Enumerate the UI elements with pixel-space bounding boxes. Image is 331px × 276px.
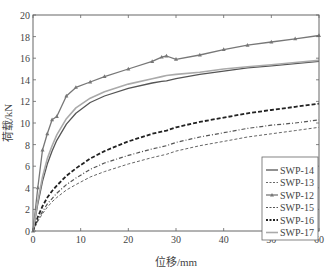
y-tick-label: 18 — [20, 32, 30, 43]
y-tick-label: 14 — [20, 75, 30, 86]
y-tick-label: 20 — [20, 10, 30, 21]
legend-entry: SWP-17 — [280, 227, 314, 238]
y-tick-label: 10 — [20, 118, 30, 129]
x-tick-label: 40 — [219, 234, 229, 245]
y-tick-label: 0 — [25, 226, 30, 237]
y-tick-label: 16 — [20, 53, 30, 64]
legend-entry: SWP-12 — [280, 190, 314, 201]
line-chart: 02468101214161820 0102030405060 荷载/kN 位移… — [0, 0, 331, 276]
y-axis-label: 荷载/kN — [2, 104, 14, 143]
y-tick-label: 4 — [25, 183, 30, 194]
x-tick-label: 30 — [171, 234, 181, 245]
x-tick-label: 0 — [31, 234, 36, 245]
y-tick-label: 6 — [25, 161, 30, 172]
legend-entry: SWP-15 — [280, 202, 314, 213]
x-tick-label: 10 — [76, 234, 86, 245]
x-axis-label: 位移/mm — [155, 255, 198, 268]
y-tick-label: 8 — [25, 140, 30, 151]
legend-entry: SWP-16 — [280, 215, 314, 226]
y-tick-label: 12 — [20, 96, 30, 107]
legend-entry: SWP-13 — [280, 177, 314, 188]
legend: SWP-14SWP-13SWP-12SWP-15SWP-16SWP-17 — [262, 157, 318, 240]
y-tick-label: 2 — [25, 204, 30, 215]
legend-entry: SWP-14 — [280, 165, 314, 176]
x-tick-label: 20 — [123, 234, 133, 245]
